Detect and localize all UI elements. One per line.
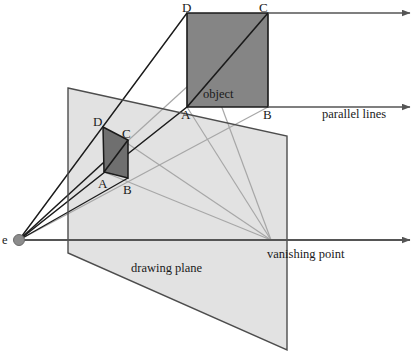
object-caption: object	[203, 88, 234, 101]
object-vertex-label-d: D	[182, 1, 191, 14]
parallel-lines-caption: parallel lines	[322, 108, 386, 121]
object-vertex-label-b: B	[263, 108, 272, 121]
perspective-diagram-svg	[0, 0, 415, 356]
projected-vertex-label-a: A	[98, 177, 107, 190]
eye-point-label: e	[2, 234, 8, 247]
vanishing-point-caption: vanishing point	[267, 248, 344, 261]
projected-vertex-label-b: B	[123, 183, 132, 196]
object-vertex-label-a: A	[181, 108, 190, 121]
diagram-canvas: e D C A B D C A B object drawing plane v…	[0, 0, 415, 356]
eye-point-dot	[14, 235, 25, 246]
projected-vertex-label-c: C	[122, 127, 131, 140]
object-vertex-label-c: C	[259, 1, 268, 14]
projected-vertex-label-d: D	[93, 115, 102, 128]
drawing-plane-caption: drawing plane	[131, 262, 202, 275]
